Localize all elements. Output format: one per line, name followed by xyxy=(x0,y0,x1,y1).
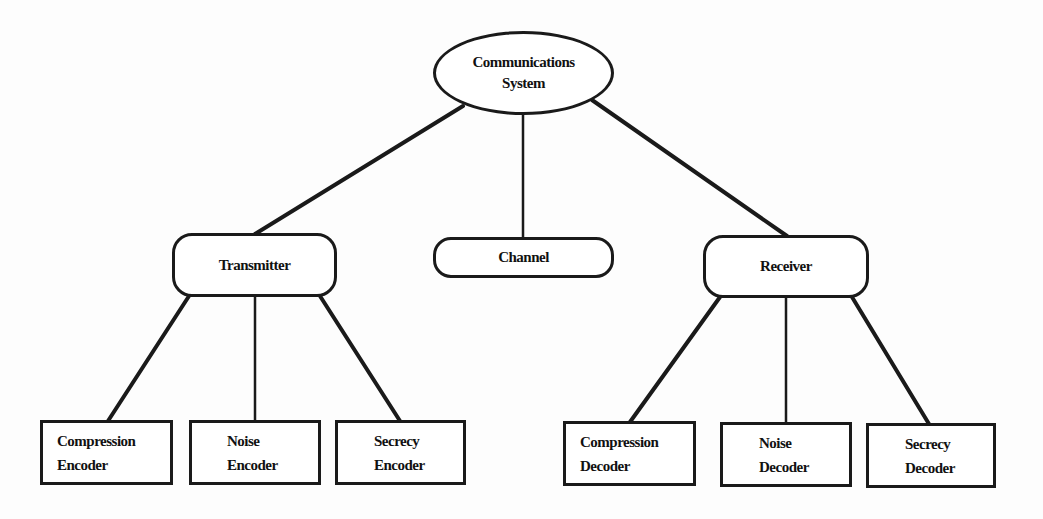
node-noise-decoder: Noise Decoder xyxy=(720,422,852,487)
node-label-line1: Compression xyxy=(57,429,135,453)
node-label: Receiver xyxy=(760,258,812,275)
edge-transmitter-secrecy-encoder xyxy=(320,296,400,421)
node-channel: Channel xyxy=(433,237,614,278)
node-label-line2: Encoder xyxy=(227,453,278,477)
node-communications-system: Communications System xyxy=(433,31,614,115)
node-label-line1: Noise xyxy=(759,431,792,455)
edge-root-transmitter xyxy=(255,106,463,234)
node-transmitter: Transmitter xyxy=(172,233,337,297)
node-label-line1: Compression xyxy=(580,430,658,454)
node-compression-encoder: Compression Encoder xyxy=(40,420,173,485)
node-secrecy-decoder: Secrecy Decoder xyxy=(866,423,996,488)
node-label-line2: Decoder xyxy=(580,454,630,478)
edge-root-receiver xyxy=(592,100,787,236)
node-label: Transmitter xyxy=(219,257,291,274)
node-label-line1: Communications xyxy=(472,52,574,73)
diagram-canvas: Communications System Transmitter Channe… xyxy=(0,0,1043,519)
node-label-line1: Secrecy xyxy=(905,432,950,456)
node-label-line2: Encoder xyxy=(374,453,425,477)
node-label: Channel xyxy=(498,249,549,266)
node-compression-decoder: Compression Decoder xyxy=(563,421,696,486)
node-label-line2: Decoder xyxy=(905,456,955,480)
node-secrecy-encoder: Secrecy Encoder xyxy=(335,420,466,485)
node-label-line2: Decoder xyxy=(759,455,809,479)
node-label-line1: Secrecy xyxy=(374,429,419,453)
edge-receiver-secrecy-decoder xyxy=(852,297,929,424)
node-label-line2: System xyxy=(502,73,545,94)
edge-receiver-compression-decoder xyxy=(630,297,720,422)
node-label-line1: Noise xyxy=(227,429,260,453)
node-label-line2: Encoder xyxy=(57,453,108,477)
node-noise-encoder: Noise Encoder xyxy=(189,420,321,485)
edge-transmitter-compression-encoder xyxy=(108,296,189,421)
node-receiver: Receiver xyxy=(703,235,869,298)
